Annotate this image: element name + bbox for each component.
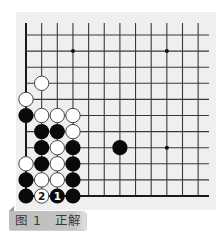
go-board: 21 (0, 0, 224, 243)
black-stone (65, 156, 80, 171)
star-point (165, 49, 169, 53)
black-stone (34, 156, 49, 171)
white-stone (50, 141, 64, 155)
black-stone (18, 172, 33, 187)
white-stone (50, 108, 64, 122)
figure-caption: 图 1 正解 (9, 211, 86, 230)
move-number-label: 1 (54, 190, 61, 202)
star-point (165, 146, 169, 150)
caption-text: 图 1 正解 (15, 213, 82, 228)
white-stone (19, 92, 33, 106)
black-stone (34, 124, 49, 139)
white-stone (34, 76, 48, 90)
black-stone (50, 124, 65, 139)
white-stone (34, 108, 48, 122)
move-number-label: 2 (38, 190, 45, 202)
black-stone (112, 140, 127, 155)
black-stone (65, 188, 80, 203)
white-stone (66, 108, 80, 122)
star-point (71, 49, 75, 53)
black-stone (65, 140, 80, 155)
white-stone (50, 157, 64, 171)
white-stone (34, 173, 48, 187)
black-stone (65, 172, 80, 187)
white-stone (50, 173, 64, 187)
black-stone (18, 108, 33, 123)
black-stone (18, 188, 33, 203)
white-stone (66, 124, 80, 138)
white-stone (19, 157, 33, 171)
black-stone (34, 140, 49, 155)
